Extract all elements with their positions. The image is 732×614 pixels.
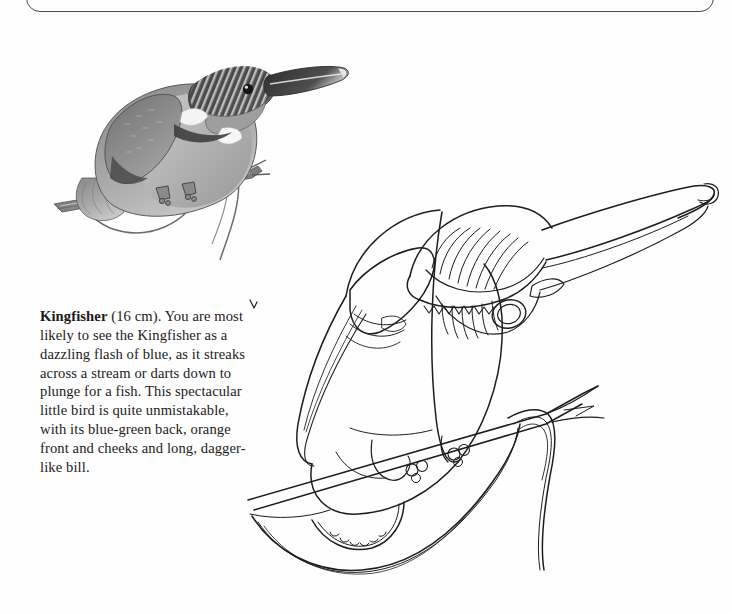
species-name: Kingfisher xyxy=(40,308,107,324)
species-caption: Kingfisher (16 cm). You are most likely … xyxy=(40,307,254,478)
eye-line xyxy=(495,302,522,327)
caption-body: You are most likely to see the Kingfishe… xyxy=(40,308,246,476)
breast-contour xyxy=(432,212,460,462)
eye-ring-outer xyxy=(489,296,529,332)
kingfisher-line-drawing xyxy=(246,118,732,588)
tail-line xyxy=(297,296,366,466)
flank-contour xyxy=(336,452,386,478)
bill-line xyxy=(540,184,718,290)
belly-contour xyxy=(350,428,432,435)
species-size: (16 cm). xyxy=(107,308,164,324)
field-guide-page: Kingfisher (16 cm). You are most likely … xyxy=(0,0,732,614)
crown-hatching xyxy=(432,228,528,289)
wing-line xyxy=(346,248,434,348)
feet-line xyxy=(371,436,469,483)
bill-shaded xyxy=(264,66,349,96)
eye-shaded xyxy=(243,84,253,94)
undertail-arc xyxy=(312,502,404,550)
rounded-panel-bottom-edge xyxy=(26,0,714,12)
